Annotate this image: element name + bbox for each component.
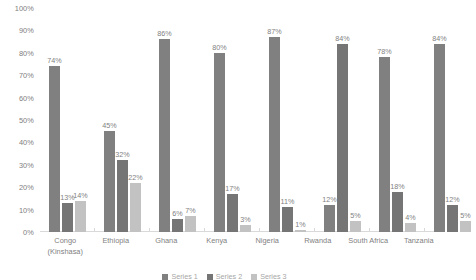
- bar-group: 84%12%5%: [425, 8, 476, 232]
- bar-slot: 12%: [324, 8, 335, 232]
- bar-group: 12%84%5%: [315, 8, 370, 232]
- x-axis-label: Tanzania: [394, 236, 445, 257]
- bar-value-label: 3%: [240, 215, 250, 224]
- bar-value-label: 86%: [157, 29, 171, 38]
- bar-value-label: 17%: [225, 184, 239, 193]
- bar[interactable]: 14%: [75, 201, 86, 232]
- bar-value-label: 32%: [115, 150, 129, 159]
- bar-slot: 32%: [117, 8, 128, 232]
- bar[interactable]: 5%: [460, 221, 471, 232]
- bar-value-label: 4%: [405, 213, 415, 222]
- bar[interactable]: 32%: [117, 160, 128, 232]
- bar-value-label: 74%: [47, 56, 61, 65]
- bar-value-label: 12%: [445, 195, 459, 204]
- y-axis-tick: 100%: [15, 4, 34, 13]
- bar-slot: 18%: [392, 8, 403, 232]
- y-axis-tick: 30%: [19, 160, 34, 169]
- bar-slot: 22%: [130, 8, 141, 232]
- bar[interactable]: 87%: [269, 37, 280, 232]
- legend-item[interactable]: Series 1: [162, 272, 197, 280]
- bar-group: 45%32%22%: [95, 8, 150, 232]
- legend-label: Series 2: [216, 272, 242, 280]
- bar-value-label: 84%: [335, 34, 349, 43]
- bar[interactable]: 1%: [295, 230, 306, 232]
- plot-area: 74%13%14%45%32%22%86%6%7%80%17%3%87%11%1…: [40, 8, 444, 232]
- bar-slot: 45%: [104, 8, 115, 232]
- bar[interactable]: 13%: [62, 203, 73, 232]
- bar-value-label: 5%: [460, 211, 470, 220]
- bar-slot: 14%: [75, 8, 86, 232]
- bar-slot: 1%: [295, 8, 306, 232]
- legend-label: Series 1: [171, 272, 197, 280]
- bar-slot: 84%: [337, 8, 348, 232]
- x-axis-labels: Congo (Kinshasa)EthiopiaGhanaKenyaNigeri…: [40, 236, 444, 257]
- x-axis-label: South Africa: [343, 236, 394, 257]
- bar[interactable]: 12%: [324, 205, 335, 232]
- bar[interactable]: 12%: [447, 205, 458, 232]
- legend-label: Series 3: [260, 272, 286, 280]
- bar[interactable]: 22%: [130, 183, 141, 232]
- bar[interactable]: 84%: [434, 44, 445, 232]
- bar[interactable]: 18%: [392, 192, 403, 232]
- x-axis-label: Congo (Kinshasa): [40, 236, 91, 257]
- bar[interactable]: 5%: [350, 221, 361, 232]
- x-axis-label: Ghana: [141, 236, 192, 257]
- bar-value-label: 12%: [322, 195, 336, 204]
- x-axis-label: Kenya: [192, 236, 243, 257]
- bar-value-label: 45%: [102, 121, 116, 130]
- bar-value-label: 84%: [432, 34, 446, 43]
- bar-slot: 11%: [282, 8, 293, 232]
- bar-slot: 6%: [172, 8, 183, 232]
- bar-value-label: 22%: [128, 173, 142, 182]
- bar-value-label: 80%: [212, 43, 226, 52]
- legend-item[interactable]: Series 3: [251, 272, 286, 280]
- bar-group: 74%13%14%: [40, 8, 95, 232]
- bar-slot: 87%: [269, 8, 280, 232]
- bar[interactable]: 4%: [405, 223, 416, 232]
- legend-swatch: [251, 274, 257, 280]
- bar[interactable]: 17%: [227, 194, 238, 232]
- bar[interactable]: 11%: [282, 207, 293, 232]
- bar-value-label: 7%: [185, 206, 195, 215]
- bar[interactable]: 3%: [240, 225, 251, 232]
- y-axis-tick: 90%: [19, 26, 34, 35]
- y-axis-tick: 70%: [19, 71, 34, 80]
- bar[interactable]: 6%: [172, 219, 183, 232]
- y-axis-tick: 60%: [19, 93, 34, 102]
- bar-value-label: 78%: [377, 47, 391, 56]
- y-axis-tick: 20%: [19, 183, 34, 192]
- y-axis-tick: 50%: [19, 116, 34, 125]
- bar[interactable]: 86%: [159, 39, 170, 232]
- bar-value-label: 18%: [390, 182, 404, 191]
- y-axis-tick: 10%: [19, 205, 34, 214]
- bar-value-label: 11%: [281, 197, 295, 206]
- bar-value-label: 6%: [172, 209, 182, 218]
- bar-value-label: 14%: [73, 191, 87, 200]
- bar-slot: 84%: [434, 8, 445, 232]
- bar[interactable]: 80%: [214, 53, 225, 232]
- legend-swatch: [162, 274, 168, 280]
- bar[interactable]: 45%: [104, 131, 115, 232]
- bar-group: 86%6%7%: [150, 8, 205, 232]
- bar-group: 87%11%1%: [260, 8, 315, 232]
- x-axis-label: Ethiopia: [91, 236, 142, 257]
- bar[interactable]: 74%: [49, 66, 60, 232]
- bar-slot: 74%: [49, 8, 60, 232]
- legend-item[interactable]: Series 2: [207, 272, 242, 280]
- bar-value-label: 87%: [267, 27, 281, 36]
- bar[interactable]: 7%: [185, 216, 196, 232]
- bar-groups: 74%13%14%45%32%22%86%6%7%80%17%3%87%11%1…: [40, 8, 444, 232]
- y-axis-tick: 0%: [23, 228, 34, 237]
- bar-slot: 78%: [379, 8, 390, 232]
- bar-slot: 4%: [405, 8, 416, 232]
- bar-slot: 13%: [62, 8, 73, 232]
- bar-slot: 7%: [185, 8, 196, 232]
- bar-slot: 5%: [460, 8, 471, 232]
- x-axis-label: Rwanda: [293, 236, 344, 257]
- bar-group: 78%18%4%: [370, 8, 425, 232]
- bar[interactable]: 78%: [379, 57, 390, 232]
- bar-slot: 5%: [350, 8, 361, 232]
- y-axis-tick: 80%: [19, 48, 34, 57]
- bar[interactable]: 84%: [337, 44, 348, 232]
